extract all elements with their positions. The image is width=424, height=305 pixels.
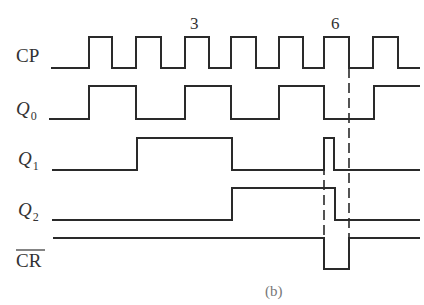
- dashed-reference-lines: [324, 68, 349, 269]
- pulse-number-3: 3: [190, 14, 199, 33]
- clock-pulse-markers: 36: [190, 14, 340, 33]
- waveform-cr-bar: [53, 238, 420, 269]
- signal-label-q1: Q1: [18, 148, 39, 173]
- signal-subscript: 2: [33, 210, 39, 224]
- signal-label-q2: Q2: [18, 199, 39, 224]
- waveform-cp: [51, 37, 420, 68]
- signal-subscript: 1: [33, 159, 39, 173]
- signal-subscript: 0: [31, 109, 37, 123]
- figure-caption: (b): [265, 283, 283, 300]
- signal-labels: CPQ0Q1Q2CR: [16, 45, 45, 271]
- waveform-q0: [49, 86, 420, 119]
- waveforms: [49, 37, 420, 269]
- timing-diagram: CPQ0Q1Q2CR 36 (b): [0, 0, 424, 305]
- signal-label-cp: CP: [16, 45, 39, 66]
- signal-label-cr-bar: CR: [16, 250, 42, 271]
- waveform-q2: [52, 188, 420, 220]
- signal-label-q0: Q0: [16, 98, 37, 123]
- waveform-q1: [52, 138, 420, 170]
- pulse-number-6: 6: [331, 14, 340, 33]
